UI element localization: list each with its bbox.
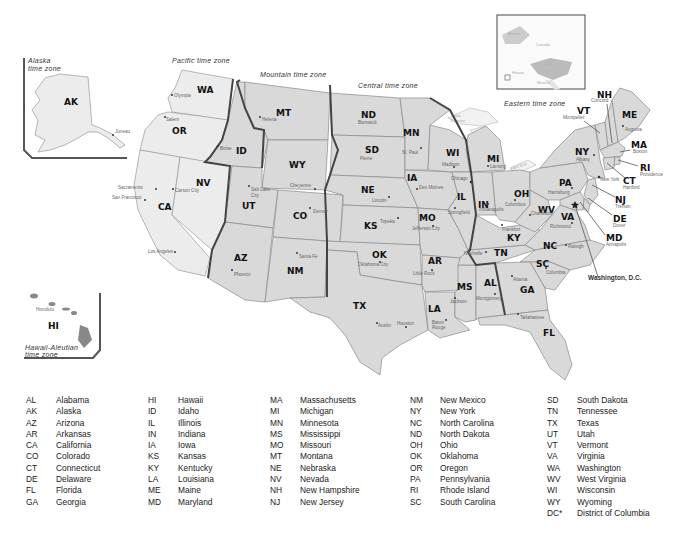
state-ri xyxy=(614,157,620,165)
state-ms xyxy=(455,265,476,322)
legend-state-name: Delaware xyxy=(56,474,91,485)
legend-row: NHNew Hampshire xyxy=(270,485,360,496)
legend-state-name: New Mexico xyxy=(440,395,486,406)
legend-abbr: WV xyxy=(547,474,577,485)
locator-alaska: Alaska xyxy=(508,31,521,36)
city-concord: Concord xyxy=(591,98,609,103)
legend-state-name: North Carolina xyxy=(440,418,494,429)
legend-state-name: Virginia xyxy=(577,451,605,462)
city-lansing: Lansing xyxy=(490,164,507,169)
legend-row: MSMississippi xyxy=(270,429,360,440)
legend-row: GAGeorgia xyxy=(26,497,100,508)
label-al: AL xyxy=(484,278,497,288)
city-frankfort: Frankfort xyxy=(502,227,521,232)
label-nd: ND xyxy=(361,110,376,120)
label-ak: AK xyxy=(64,97,79,107)
legend-abbr: PA xyxy=(410,474,440,485)
legend-state-name: Nebraska xyxy=(300,463,336,474)
legend-abbr: VT xyxy=(547,440,577,451)
city-hartford: Hartford xyxy=(623,185,640,190)
legend-state-name: Indiana xyxy=(178,429,205,440)
label-washington-dc: Washington, D.C. xyxy=(588,274,642,282)
city-columbus: Columbus xyxy=(505,202,526,207)
legend-row: NMNew Mexico xyxy=(410,395,495,406)
legend-state-name: District of Columbia xyxy=(577,508,650,519)
city-montgomery: Montgomery xyxy=(476,296,502,301)
legend-column-3: MAMassachusettsMIMichiganMNMinnesotaMSMi… xyxy=(270,395,360,508)
legend-row: PAPennsylvania xyxy=(410,474,495,485)
label-mn: MN xyxy=(403,128,420,138)
legend-abbr: MS xyxy=(270,429,300,440)
label-mo: MO xyxy=(419,213,436,223)
legend-row: WYWyoming xyxy=(547,497,650,508)
legend-state-name: Florida xyxy=(56,485,82,496)
legend-abbr: MO xyxy=(270,440,300,451)
legend-state-name: Iowa xyxy=(178,440,196,451)
city-jackson: Jackson xyxy=(450,299,467,304)
legend-state-name: Oregon xyxy=(440,463,468,474)
legend-abbr: DE xyxy=(26,474,56,485)
legend-state-name: Louisiana xyxy=(178,474,214,485)
legend-abbr: NE xyxy=(270,463,300,474)
city-sacramento: Sacramento xyxy=(118,185,143,190)
city-charleston: Charleston xyxy=(531,211,554,216)
city-providence: Providence xyxy=(640,172,663,177)
legend-abbr: NC xyxy=(410,418,440,429)
legend-abbr: CO xyxy=(26,451,56,462)
legend-abbr: MA xyxy=(270,395,300,406)
legend-abbr: AZ xyxy=(26,418,56,429)
label-la: LA xyxy=(428,304,441,314)
legend-state-name: Wisconsin xyxy=(577,485,615,496)
city-little-rock: Little Rock xyxy=(413,271,435,276)
legend-row: TNTennessee xyxy=(547,406,650,417)
legend-abbr: AL xyxy=(26,395,56,406)
label-ny: NY xyxy=(575,147,590,157)
legend-row: OKOklahoma xyxy=(410,451,495,462)
city-richmond: Richmond xyxy=(550,224,571,229)
legend-state-name: Oklahoma xyxy=(440,451,478,462)
city-houston: Houston xyxy=(397,321,415,326)
legend-abbr: UT xyxy=(547,429,577,440)
legend-row: VAVirginia xyxy=(547,451,650,462)
legend-row: FLFlorida xyxy=(26,485,100,496)
legend-row: AKAlaska xyxy=(26,406,100,417)
city-bismarck: Bismarck xyxy=(358,120,378,125)
label-va: VA xyxy=(561,212,574,222)
legend-row: NCNorth Carolina xyxy=(410,418,495,429)
label-mt: MT xyxy=(276,108,292,118)
alaska-tz-label-2: time zone xyxy=(28,65,61,72)
pacific-tz-label: Pacific time zone xyxy=(172,57,230,64)
legend-state-name: New Jersey xyxy=(300,497,344,508)
legend-abbr: TN xyxy=(547,406,577,417)
legend-row: DEDelaware xyxy=(26,474,100,485)
legend-state-name: Washington xyxy=(577,463,621,474)
legend-abbr: SC xyxy=(410,497,440,508)
label-wy: WY xyxy=(289,160,306,170)
legend-abbr: CA xyxy=(26,440,56,451)
alaska-inset: Alaska time zone AK Juneau xyxy=(24,57,131,158)
legend-abbr: MD xyxy=(148,497,178,508)
legend-row: KYKentucky xyxy=(148,463,214,474)
legend-state-name: Utah xyxy=(577,429,595,440)
legend-state-name: Texas xyxy=(577,418,599,429)
city-baton-rouge-2: Rouge xyxy=(432,325,446,330)
legend-state-name: North Dakota xyxy=(440,429,489,440)
legend-state-name: Nevada xyxy=(300,474,329,485)
state-fl xyxy=(478,310,572,380)
legend-abbr: VA xyxy=(547,451,577,462)
city-chicago: Chicago xyxy=(451,176,468,181)
label-ia: IA xyxy=(407,173,417,183)
legend-state-name: Arkansas xyxy=(56,429,91,440)
legend-row: IAIowa xyxy=(148,440,214,451)
label-ks: KS xyxy=(364,221,377,231)
city-carson-city: Carson City xyxy=(175,188,200,193)
legend-state-name: South Carolina xyxy=(440,497,495,508)
legend-row: WAWashington xyxy=(547,463,650,474)
locator-mexico: Mexico xyxy=(537,80,550,85)
legend-state-name: Kentucky xyxy=(178,463,212,474)
state-ak xyxy=(32,74,125,152)
city-madison: Madison xyxy=(442,162,460,167)
legend-row: NYNew York xyxy=(410,406,495,417)
legend-abbr: ND xyxy=(410,429,440,440)
legend-state-name: Montana xyxy=(300,451,333,462)
